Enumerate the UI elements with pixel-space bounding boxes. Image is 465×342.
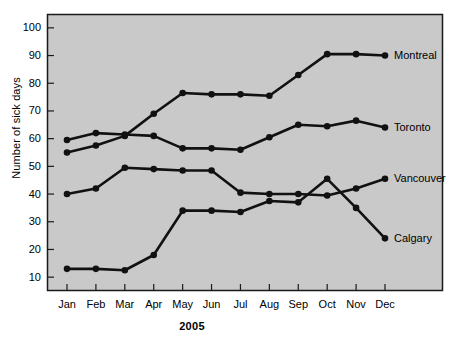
data-point bbox=[324, 192, 331, 199]
data-point bbox=[266, 92, 273, 99]
data-point bbox=[64, 137, 71, 144]
series-label-calgary: Calgary bbox=[394, 233, 432, 244]
data-point bbox=[237, 91, 244, 98]
data-point bbox=[150, 252, 157, 259]
data-point bbox=[179, 90, 186, 97]
data-point bbox=[353, 205, 360, 212]
series-label-toronto: Toronto bbox=[394, 122, 431, 133]
data-point bbox=[295, 191, 302, 198]
data-point bbox=[295, 199, 302, 206]
data-point bbox=[237, 209, 244, 216]
data-point bbox=[93, 266, 100, 273]
data-point bbox=[93, 130, 100, 137]
data-point bbox=[122, 267, 129, 274]
y-tick-label: 90 bbox=[13, 50, 41, 61]
data-point bbox=[150, 166, 157, 173]
data-point bbox=[93, 185, 100, 192]
data-point bbox=[353, 51, 360, 58]
data-point bbox=[208, 167, 215, 174]
data-point bbox=[353, 185, 360, 192]
data-point bbox=[382, 176, 389, 183]
data-point bbox=[122, 131, 129, 138]
data-point bbox=[208, 91, 215, 98]
data-point bbox=[324, 123, 331, 130]
data-point bbox=[64, 191, 71, 198]
data-point bbox=[64, 266, 71, 273]
y-tick-label: 100 bbox=[13, 22, 41, 33]
data-point bbox=[150, 133, 157, 140]
data-point bbox=[179, 207, 186, 214]
data-point bbox=[266, 198, 273, 205]
data-point bbox=[208, 207, 215, 214]
x-axis-title: 2005 bbox=[47, 320, 337, 332]
data-point bbox=[382, 235, 389, 242]
data-point bbox=[353, 117, 360, 124]
data-point bbox=[179, 145, 186, 152]
data-point bbox=[93, 142, 100, 149]
series-label-montreal: Montreal bbox=[394, 50, 437, 61]
data-point bbox=[237, 189, 244, 196]
data-point bbox=[266, 191, 273, 198]
data-point bbox=[324, 176, 331, 183]
sick-days-line-chart: 102030405060708090100 JanFebMarAprMayJun… bbox=[0, 0, 465, 342]
data-point bbox=[150, 110, 157, 117]
data-point bbox=[179, 167, 186, 174]
series-label-vancouver: Vancouver bbox=[394, 173, 446, 184]
data-point bbox=[208, 145, 215, 152]
data-point bbox=[237, 146, 244, 153]
x-tick-label: Dec bbox=[365, 299, 405, 310]
data-point bbox=[324, 51, 331, 58]
data-point bbox=[295, 122, 302, 129]
data-point bbox=[382, 52, 389, 59]
data-point bbox=[122, 164, 129, 171]
y-tick-label: 10 bbox=[13, 272, 41, 283]
y-axis-title: Number of sick days bbox=[10, 68, 22, 188]
data-point bbox=[64, 149, 71, 156]
data-point bbox=[266, 134, 273, 141]
y-tick-label: 40 bbox=[13, 189, 41, 200]
data-point bbox=[382, 124, 389, 131]
y-tick-label: 20 bbox=[13, 244, 41, 255]
data-point bbox=[295, 72, 302, 79]
y-tick-label: 30 bbox=[13, 216, 41, 227]
